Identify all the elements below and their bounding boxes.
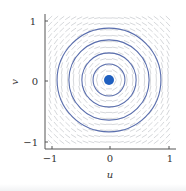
vector-arrow [77,141,82,144]
vector-arrow [161,51,164,56]
x-tick-label: 1 [167,153,173,164]
vector-arrow [138,86,140,92]
vector-arrow [143,104,147,109]
vector-arrow [49,57,51,63]
vector-arrow [137,98,140,103]
vector-arrow [136,110,140,114]
vector-arrow [118,93,123,97]
vector-arrow [160,33,164,38]
equilibrium-point [104,75,114,85]
vector-arrow [66,57,69,62]
vector-arrow [155,62,157,68]
vector-arrow [112,124,118,125]
vector-arrow [124,23,130,25]
vector-arrow [61,62,63,68]
vector-arrow [148,116,152,120]
vector-arrow [144,68,145,74]
vector-arrow [88,17,94,19]
vector-arrow [155,92,157,98]
vector-arrow [89,111,94,114]
vector-arrow [71,17,76,20]
vector-arrow [83,23,89,25]
vector-arrow [48,28,52,33]
vector-arrow [142,34,147,38]
vector-arrow [83,29,88,32]
vector-arrow [136,135,141,138]
vector-arrow [126,80,127,86]
vector-arrow [94,17,100,18]
vector-arrow [94,47,100,49]
vector-arrow [131,98,135,103]
vector-arrow [77,23,82,26]
vector-arrow [124,52,129,55]
vector-arrow [95,99,100,102]
vector-arrow [88,23,94,25]
vector-arrow [130,17,136,19]
vector-arrow [94,123,100,125]
vector-arrow [112,130,118,131]
vector-arrow [91,74,92,80]
vector-arrow [61,92,63,98]
vector-arrow [83,40,88,43]
vector-arrow [124,141,130,143]
vector-arrow [167,51,169,56]
vector-arrow [142,110,146,114]
vector-arrow [90,68,93,73]
vector-arrow [54,39,58,44]
vector-arrow [166,128,170,133]
vector-arrow [95,58,100,61]
vector-arrow [61,86,62,92]
vector-arrow [125,63,129,68]
vector-arrow [148,39,152,43]
vector-arrow [54,28,58,32]
vector-arrow [88,135,94,137]
vector-arrow [100,47,106,48]
vector-arrow [118,111,124,113]
y-axis-label: v [9,79,20,85]
vector-arrow [89,123,95,125]
vector-arrow [78,92,81,97]
vector-arrow [148,140,153,143]
vector-arrow [148,16,153,19]
vector-arrow [96,74,97,80]
vector-arrow [72,110,76,114]
vector-arrow [77,40,82,44]
vector-arrow [112,118,118,119]
vector-arrow [130,117,135,120]
vector-arrow [85,80,86,86]
vector-arrow [166,28,170,33]
vector-arrow [124,123,130,125]
vector-arrow [96,80,97,86]
vector-arrow [89,105,94,108]
vector-arrow [130,51,134,55]
vector-arrow [101,69,106,72]
vector-arrow [77,117,82,121]
vector-arrow [65,140,70,143]
vector-arrow [142,17,147,20]
x-tick-label: 0 [107,153,113,164]
vector-arrow [48,33,52,38]
vector-arrow [54,140,59,144]
vector-arrow [60,45,63,50]
vector-arrow [136,40,141,44]
vector-arrow [71,134,76,137]
vector-arrow [89,46,94,49]
vector-arrow [65,28,70,32]
vector-arrow [66,51,69,56]
vector-arrow [124,111,129,114]
vector-arrow [148,134,153,138]
vector-arrow [60,34,64,38]
vector-arrow [124,46,129,49]
vector-arrow [49,62,50,68]
vector-arrow [126,74,127,80]
y-tick-label: 1 [30,16,36,27]
x-tick-label: −1 [43,153,58,164]
vector-arrow [161,92,163,98]
vector-arrow [166,116,169,121]
vector-arrow [131,57,135,62]
vector-arrow [72,45,76,49]
vector-arrow [166,134,170,138]
vector-arrow [48,128,52,133]
vector-arrow [136,117,141,121]
vector-arrow [77,46,81,50]
